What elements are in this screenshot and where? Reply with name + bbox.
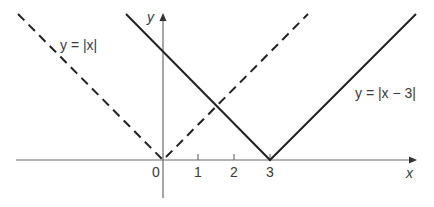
label-abs-x: y = |x| xyxy=(60,37,97,53)
x-axis-arrow-icon xyxy=(409,157,417,164)
x-axis-label: x xyxy=(405,165,414,181)
tick-label-2: 2 xyxy=(230,164,238,180)
tick-label-3: 3 xyxy=(266,164,274,180)
tick-label-1: 1 xyxy=(194,164,202,180)
y-axis-arrow-icon xyxy=(160,13,167,21)
y-axis-label: y xyxy=(146,9,155,25)
tick-label-0: 0 xyxy=(152,164,160,180)
graph-canvas: y x 0 1 2 3 y = |x| y = |x − 3| xyxy=(0,0,434,207)
label-abs-x-minus-3: y = |x − 3| xyxy=(355,85,416,101)
